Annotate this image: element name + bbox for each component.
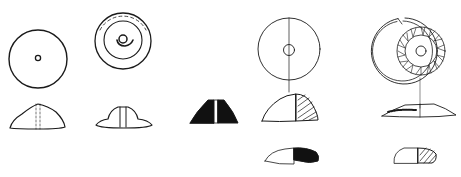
- spindle-whorl-drawings: [0, 0, 461, 177]
- whorl-2: [95, 13, 152, 128]
- whorl-4: [258, 18, 320, 164]
- whorl-3: [190, 100, 238, 123]
- whorl-5: [371, 18, 456, 163]
- drawing-plate: [0, 0, 461, 177]
- whorl-1: [9, 30, 67, 129]
